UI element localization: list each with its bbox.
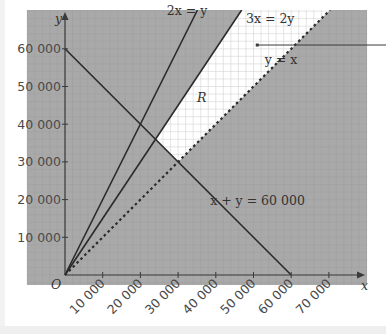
origin-label: O xyxy=(51,277,61,292)
chart-frame xyxy=(27,10,367,285)
annotation-label: R xyxy=(196,90,206,105)
y-tick-label: 40 000 xyxy=(17,117,61,132)
shaded-background xyxy=(27,10,367,285)
y-tick-label: 20 000 xyxy=(17,192,61,207)
y-tick-label: 10 000 xyxy=(17,230,61,245)
annotation-label: y = x xyxy=(264,52,298,67)
x-axis-label: x xyxy=(361,278,368,293)
y-axis-label: y xyxy=(54,11,63,26)
leader-dot-icon xyxy=(256,44,259,47)
annotation-label: 2x = y xyxy=(167,3,208,18)
annotation-label: x + y = 60 000 xyxy=(210,193,305,208)
y-tick-label: 60 000 xyxy=(17,41,61,56)
y-tick-label: 50 000 xyxy=(17,79,61,94)
annotation-label: 3x = 2y xyxy=(246,11,295,26)
linear-programming-chart: 10 00020 00030 00040 00050 00060 00070 0… xyxy=(0,0,386,334)
y-tick-label: 30 000 xyxy=(17,154,61,169)
